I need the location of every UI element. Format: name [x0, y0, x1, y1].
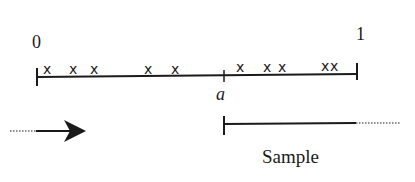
sample-mark: x	[321, 58, 329, 74]
sample-mark: x	[171, 61, 179, 77]
sample-mark: x	[90, 61, 98, 77]
diagram-canvas: 0 1 a x x x x x x x x x x	[0, 0, 415, 182]
sample-marks-left: x x x x x	[43, 61, 179, 77]
arrow-right-icon	[10, 120, 86, 142]
sample-segment	[224, 116, 401, 135]
sample-mark: x	[330, 58, 338, 74]
sample-mark: x	[236, 59, 244, 75]
sample-mark: x	[263, 59, 271, 75]
number-line-sampling-diagram: 0 1 a x x x x x x x x x x	[0, 0, 415, 182]
sample-mark: x	[43, 61, 51, 77]
sample-mark: x	[144, 61, 152, 77]
sample-label: Sample	[262, 146, 319, 167]
sample-mark: x	[278, 59, 286, 75]
sample-mark: x	[69, 61, 77, 77]
split-label-a: a	[216, 84, 225, 104]
start-label: 0	[32, 32, 41, 52]
end-label: 1	[356, 24, 365, 44]
number-line	[37, 74, 357, 77]
sample-marks-right: x x x x x	[236, 58, 338, 75]
